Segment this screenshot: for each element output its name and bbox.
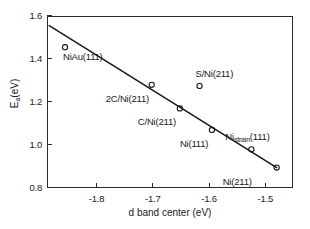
y-tick-mark (47, 187, 52, 188)
data-point-label: Nistrain(111) (225, 132, 269, 143)
y-tick-label: 1.4 (29, 54, 42, 64)
x-tick-label: -1.8 (89, 194, 105, 204)
y-tick-label: 0.8 (29, 183, 42, 193)
y-axis-title: Ea(eV) (10, 63, 21, 125)
data-point-label: NiAu(111) (63, 52, 103, 62)
x-tick-mark (152, 183, 153, 188)
y-axis-title-base: E (9, 102, 20, 109)
data-point-label-subscript: strain (234, 136, 250, 143)
y-axis-title-unit: (eV) (9, 79, 20, 98)
y-tick-label: 1.2 (29, 97, 42, 107)
data-point-label: Ni(211) (223, 177, 252, 187)
data-point-label: C/Ni(211) (138, 117, 176, 127)
data-point-label: S/Ni(211) (196, 69, 234, 79)
scatter-chart-figure: 1.61.41.21.00.8-1.8-1.7-1.6-1.5 Ea(eV) d… (0, 0, 310, 229)
data-point-label-tail: (111) (250, 131, 270, 142)
plot-area-frame (47, 16, 293, 188)
x-tick-label: -1.6 (201, 194, 217, 204)
y-tick-mark (47, 101, 52, 102)
y-axis-title-subscript: a (14, 98, 21, 102)
x-tick-mark (265, 183, 266, 188)
y-tick-label: 1.0 (29, 140, 42, 150)
x-tick-label: -1.5 (258, 194, 274, 204)
x-tick-label: -1.7 (145, 194, 161, 204)
y-tick-label: 1.6 (29, 11, 42, 21)
data-point-label: Ni(111) (180, 139, 208, 149)
data-point-label: 2C/Ni(211) (106, 94, 149, 104)
data-point-label-base: Ni (225, 131, 234, 142)
y-tick-mark (47, 144, 52, 145)
x-tick-mark (96, 183, 97, 188)
x-axis-title: d band center (eV) (47, 208, 293, 218)
x-tick-mark (209, 183, 210, 188)
y-tick-mark (47, 58, 52, 59)
y-tick-mark (47, 15, 52, 16)
